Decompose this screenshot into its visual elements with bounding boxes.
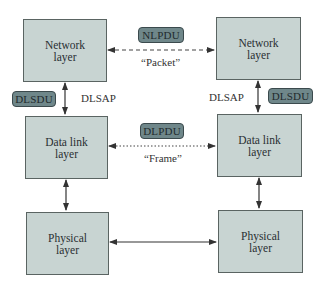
left-datalink-layer-line2: layer [55, 148, 78, 160]
left-datalink-layer-box: Data linklayer [25, 116, 108, 179]
right-network-layer-line1: Network [238, 37, 278, 49]
frame-caption: “Frame” [144, 152, 182, 164]
packet-caption: “Packet” [141, 56, 180, 68]
right-dlsdu-badge: DLSDU [268, 88, 313, 104]
left-network-layer-line2: layer [54, 51, 77, 63]
right-physical-layer-line2: layer [249, 242, 272, 254]
nlpdu-badge: NLPDU [138, 27, 184, 43]
left-physical-layer-box: Physicallayer [26, 212, 109, 275]
left-physical-layer-line1: Physical [48, 232, 87, 244]
right-datalink-layer-box: Data linklayer [217, 114, 302, 177]
left-datalink-layer-line1: Data link [45, 136, 87, 148]
left-physical-layer-line2: layer [56, 244, 79, 256]
right-datalink-layer-line2: layer [248, 146, 271, 158]
right-physical-layer-line1: Physical [241, 230, 280, 242]
right-datalink-layer-line1: Data link [238, 134, 280, 146]
right-physical-layer-box: Physicallayer [218, 210, 303, 273]
right-dlsap-label: DLSAP [209, 91, 244, 103]
left-network-layer-line1: Network [45, 39, 85, 51]
left-network-layer-box: Networklayer [23, 19, 107, 82]
left-dlsdu-badge: DLSDU [12, 91, 56, 107]
left-dlsap-label: DLSAP [81, 92, 116, 104]
protocol-layer-diagram: Networklayer Data linklayer Physicallaye… [0, 0, 327, 286]
right-network-layer-box: Networklayer [216, 17, 301, 80]
right-network-layer-line2: layer [247, 49, 270, 61]
dlpdu-badge: DLPDU [140, 123, 184, 139]
